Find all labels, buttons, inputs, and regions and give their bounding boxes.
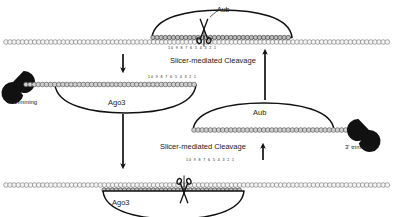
bottom-ago3-label: Ago3 xyxy=(112,198,130,207)
left-ruler-labels: 10 9 8 7 6 5 4 3 2 1 xyxy=(148,75,197,79)
piRNA-ping-pong-diagram xyxy=(0,0,393,217)
bottom-ruler-labels: 10 9 8 7 6 5 4 3 2 1 xyxy=(186,158,235,162)
bottom-process-label: Slicer-mediated Cleavage xyxy=(160,142,246,151)
top-process-label: Slicer-mediated Cleavage xyxy=(170,56,256,65)
top-ruler-labels: 10 9 8 7 6 5 4 3 2 1 xyxy=(168,46,217,50)
left-guide-strand xyxy=(24,82,197,87)
right-guide-strand xyxy=(192,128,357,133)
left-trim-label: 3' trimming xyxy=(8,99,37,105)
right-trim-label: 3' trimming xyxy=(345,144,374,150)
right-aub-label: Aub xyxy=(253,108,266,117)
left-ago3-label: Ago3 xyxy=(108,98,126,107)
top-aub-protein-body xyxy=(152,10,292,38)
bottom-target-strand xyxy=(4,183,390,188)
top-aub-label: Aub xyxy=(217,6,229,13)
